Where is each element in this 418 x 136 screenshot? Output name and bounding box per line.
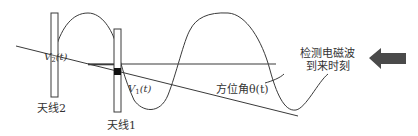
antenna1-label: 天线1 <box>107 118 136 132</box>
antenna-diagram: V2(t) V1(t) 天线2 天线1 方位角θ(t) 检测电磁波 到来时刻 <box>0 0 418 136</box>
azimuth-label: 方位角θ(t) <box>216 82 269 96</box>
detect-label-line2: 到来时刻 <box>306 59 350 73</box>
antenna2-label: 天线2 <box>37 101 66 115</box>
azimuth-arc <box>265 74 284 83</box>
left-arrow-icon <box>369 48 406 69</box>
wave-curve <box>56 13 328 110</box>
intersection-marker <box>114 68 121 75</box>
detect-label-line1: 检测电磁波 <box>300 46 355 60</box>
